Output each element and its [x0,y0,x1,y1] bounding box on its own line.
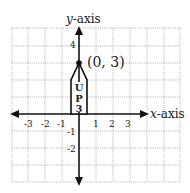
y-tick-label: 4 [70,40,76,50]
shape-text-line: 3 [76,103,83,114]
x-tick-label: 1 [93,119,99,129]
x-axis-left-arrow-icon [10,110,19,118]
y-axis-down-arrow-icon [75,177,83,186]
x-tick-label: -2 [41,119,50,129]
y-tick-label: -1 [67,127,76,137]
x-tick-label: -3 [24,119,33,129]
grid [12,28,180,182]
point-label: (0, 3) [87,54,125,70]
shape-text-line: U [75,82,84,93]
y-axis-label: y-axis [65,12,101,26]
y-tick-label: -2 [67,144,76,154]
x-tick-label: 3 [125,119,131,129]
point-marker [76,60,82,66]
x-axis-label: x-axis [150,107,185,121]
x-tick-label: 2 [109,119,115,129]
coordinate-plane: y-axis x-axis -3 -2 -1 1 2 3 4 -1 -2 U P… [0,0,190,193]
x-axis-right-arrow-icon [140,110,149,118]
y-axis-up-arrow-icon [75,26,83,35]
x-tick-label: -1 [57,119,66,129]
